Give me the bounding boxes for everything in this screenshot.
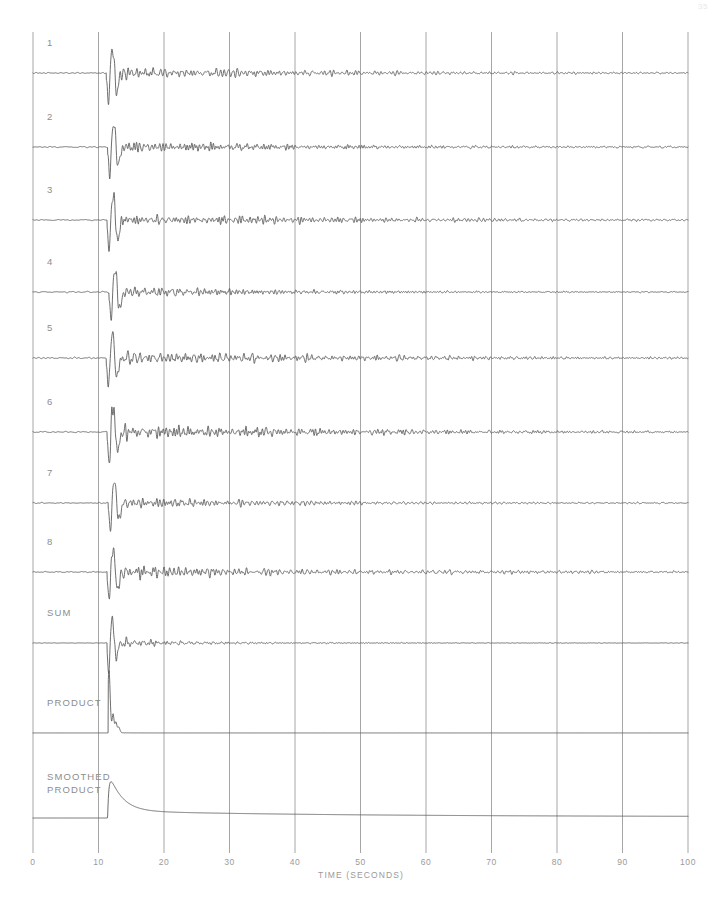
gridlines-group [33, 32, 688, 845]
page-number: 35 [698, 2, 708, 11]
trace-label-4: 4 [47, 256, 53, 267]
x-tick-label-70: 70 [486, 857, 497, 867]
x-axis-ticks-group: 0102030405060708090100 [30, 845, 696, 867]
x-tick-label-60: 60 [421, 857, 432, 867]
trace-label-3: 3 [47, 184, 53, 195]
x-tick-label-100: 100 [680, 857, 696, 867]
trace-label-1: 1 [47, 37, 53, 48]
trace-label-sum: SUM [47, 607, 71, 618]
trace-labels-group: 12345678SUMPRODUCTSMOOTHEDPRODUCT [47, 37, 111, 795]
trace-label-7: 7 [47, 467, 53, 478]
x-tick-label-30: 30 [224, 857, 235, 867]
seismic-record-section-plot: 0102030405060708090100 12345678SUMPRODUC… [0, 0, 722, 898]
trace-label-smoothed-product: SMOOTHEDPRODUCT [47, 771, 111, 795]
trace-label-2: 2 [47, 111, 53, 122]
x-axis-title: TIME (SECONDS) [318, 870, 404, 880]
trace-label-product: PRODUCT [47, 697, 102, 708]
trace-label-8: 8 [47, 536, 53, 547]
seismogram-figure: 35 0102030405060708090100 12345678SUMPRO… [0, 0, 722, 898]
x-tick-label-40: 40 [290, 857, 301, 867]
x-tick-label-90: 90 [617, 857, 628, 867]
x-tick-label-0: 0 [30, 857, 35, 867]
trace-label-6: 6 [47, 396, 53, 407]
x-tick-label-20: 20 [159, 857, 170, 867]
x-tick-label-80: 80 [552, 857, 563, 867]
trace-label-5: 5 [47, 322, 53, 333]
x-tick-label-50: 50 [355, 857, 366, 867]
x-tick-label-10: 10 [93, 857, 104, 867]
